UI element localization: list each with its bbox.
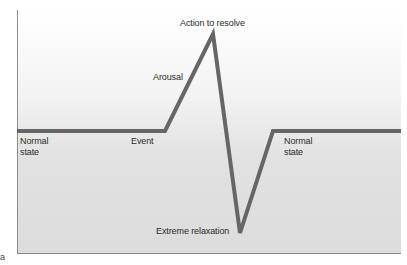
stress-curve-line <box>17 34 401 233</box>
label-event: Event <box>131 136 154 147</box>
label-action-to-resolve: Action to resolve <box>180 18 245 29</box>
label-arousal: Arousal <box>153 72 183 83</box>
label-normal-state-right: Normal state <box>284 136 324 158</box>
label-extreme-relaxation: Extreme relaxation <box>156 226 229 237</box>
figure-letter: a <box>0 252 5 262</box>
label-normal-state-left: Normal state <box>20 136 60 158</box>
